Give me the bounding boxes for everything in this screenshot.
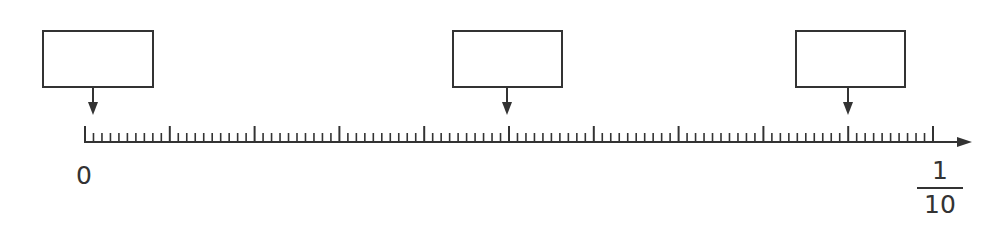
end-label-denominator: 10 <box>917 192 963 217</box>
number-line-diagram: 0 1 10 <box>0 0 997 241</box>
axis-arrow-icon <box>957 137 972 147</box>
end-label-numerator: 1 <box>917 158 963 185</box>
tick-marks <box>85 126 933 142</box>
answer-box-1[interactable] <box>43 31 153 115</box>
answer-box-1-rect[interactable] <box>43 31 153 87</box>
start-label: 0 <box>74 163 94 188</box>
answer-box-2-rect[interactable] <box>453 31 562 87</box>
pointer-arrow-3-icon <box>843 102 853 115</box>
number-line-axis <box>84 137 972 147</box>
answer-box-2[interactable] <box>453 31 562 115</box>
fraction-bar <box>917 187 963 189</box>
answer-box-3-rect[interactable] <box>796 31 905 87</box>
pointer-arrow-2-icon <box>502 102 512 115</box>
number-line-svg <box>0 0 997 241</box>
pointer-arrow-1-icon <box>88 102 98 115</box>
end-label-fraction: 1 10 <box>917 158 963 217</box>
answer-box-3[interactable] <box>796 31 905 115</box>
